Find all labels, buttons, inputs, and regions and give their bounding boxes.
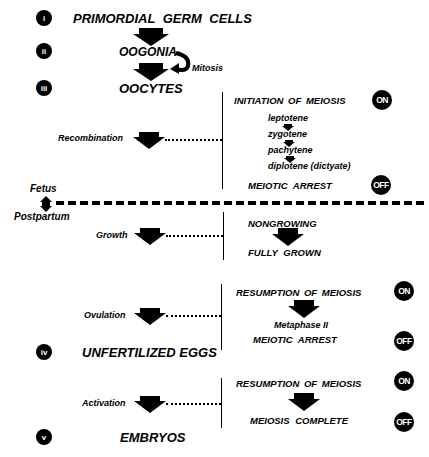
mitosis-loop-arrow-icon [168, 50, 194, 74]
substage-diplotene: diplotene (dictyate) [268, 161, 351, 171]
bracket [221, 284, 222, 350]
up-down-arrow-icon [40, 196, 52, 212]
down-arrow-icon [134, 228, 166, 245]
meiotic-arrest-label: MEIOTIC ARREST [253, 334, 337, 345]
fetus-label: Fetus [30, 183, 57, 194]
on-badge: ON [394, 371, 414, 391]
on-badge: ON [394, 281, 414, 301]
fully-grown-label: FULLY GROWN [248, 247, 321, 258]
bracket [221, 378, 222, 428]
down-arrow-icon [133, 28, 169, 46]
down-arrow-icon [288, 393, 320, 411]
process-label-growth: Growth [96, 230, 128, 240]
down-arrow-icon [272, 228, 304, 246]
meiotic-arrest-label: MEIOTIC ARREST [248, 180, 332, 191]
stage-label-oocytes: OOCYTES [119, 81, 183, 96]
bracket [223, 212, 224, 260]
dotted-connector [165, 139, 222, 141]
stage-badge-ii: ii [36, 43, 52, 59]
resumption-of-meiosis-label: RESUMPTION OF MEIOSIS [236, 287, 361, 298]
stage-badge-iii: iii [36, 80, 52, 96]
stage-badge-v: v [36, 429, 52, 445]
stage-label-primordial-germ-cells: PRIMORDIAL GERM CELLS [73, 11, 252, 26]
fetus-postpartum-divider [56, 201, 424, 205]
meiosis-complete-label: MEIOSIS COMPLETE [250, 415, 348, 426]
bracket [222, 92, 223, 189]
stage-badge-i: i [36, 10, 52, 26]
down-arrow-icon [134, 308, 166, 325]
off-badge: OFF [371, 175, 391, 195]
process-label-activation: Activation [82, 398, 126, 408]
dotted-connector [166, 235, 223, 237]
initiation-of-meiosis-label: INITIATION OF MEIOSIS [234, 95, 346, 106]
down-arrow-icon [133, 63, 169, 81]
dotted-connector [166, 315, 221, 317]
postpartum-label: Postpartum [14, 211, 70, 222]
off-badge: OFF [394, 412, 414, 432]
stage-label-embryos: EMBRYOS [120, 430, 186, 445]
substage-zygotene: zygotene [268, 129, 307, 139]
on-badge: ON [372, 90, 392, 110]
stage-label-unfertilized-eggs: UNFERTILIZED EGGS [82, 345, 217, 360]
process-label-ovulation: Ovulation [84, 310, 126, 320]
mitosis-label: Mitosis [192, 63, 223, 73]
off-badge: OFF [394, 331, 414, 351]
down-arrow-icon [134, 396, 166, 413]
metaphase-ii-label: Metaphase II [274, 320, 328, 330]
down-arrow-icon [288, 300, 320, 318]
stage-badge-iv: iv [36, 344, 52, 360]
substage-leptotene: leptotene [268, 113, 308, 123]
resumption-of-meiosis-label: RESUMPTION OF MEIOSIS [236, 378, 361, 389]
substage-pachytene: pachytene [268, 145, 313, 155]
down-arrow-icon [133, 132, 165, 149]
process-label-recombination: Recombination [58, 133, 123, 143]
dotted-connector [166, 403, 221, 405]
